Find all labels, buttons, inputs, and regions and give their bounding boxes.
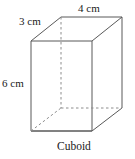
hidden-bottom-left-oblique-edge — [31, 108, 61, 131]
shape-name-caption: Cuboid — [57, 140, 91, 152]
height-label: 6 cm — [2, 77, 24, 89]
top-face-edges — [31, 17, 122, 41]
right-face-edges — [92, 17, 122, 131]
depth-label: 3 cm — [19, 15, 41, 27]
cuboid-figure: 3 cm 4 cm 6 cm Cuboid — [0, 0, 135, 159]
width-label: 4 cm — [78, 2, 100, 14]
